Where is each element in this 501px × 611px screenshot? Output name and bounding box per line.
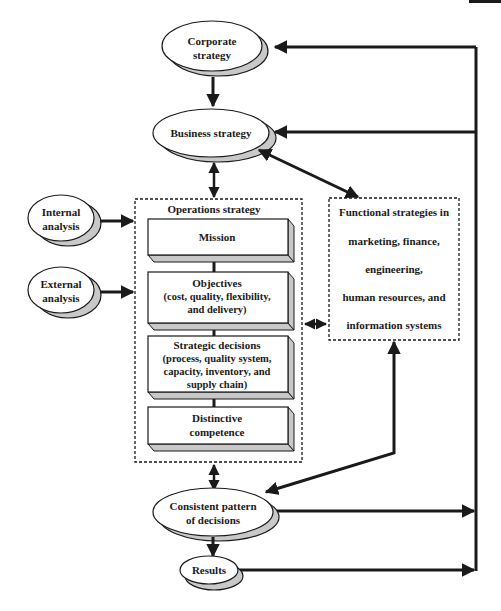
- functional-line5: information systems: [346, 319, 442, 331]
- results-node: Results: [180, 556, 243, 590]
- consistent-pattern-line2: of decisions: [186, 514, 241, 526]
- objectives-line3: and delivery): [187, 304, 247, 316]
- mission-box: Mission: [148, 219, 294, 262]
- objectives-box: Objectives (cost, quality, flexibility, …: [148, 272, 294, 330]
- internal-analysis-line1: Internal: [42, 206, 81, 218]
- operations-strategy-diagram: Corporate strategy Business strategy Int…: [0, 0, 501, 611]
- objectives-line2: (cost, quality, flexibility,: [163, 291, 270, 303]
- arrow-business-functional: [259, 150, 358, 197]
- functional-strategies-box: Functional strategies in marketing, fina…: [329, 198, 459, 340]
- strategic-decisions-line3: capacity, inventory, and: [164, 366, 271, 377]
- distinctive-competence-box: Distinctive competence: [148, 407, 294, 451]
- corporate-strategy-line1: Corporate: [188, 35, 237, 47]
- internal-analysis-line2: analysis: [42, 220, 80, 232]
- business-strategy-node: Business strategy: [153, 109, 276, 162]
- distinctive-competence-line1: Distinctive: [192, 412, 242, 424]
- strategic-decisions-line2: (process, quality system,: [163, 353, 272, 365]
- consistent-pattern-node: Consistent pattern of decisions: [153, 488, 279, 541]
- mission-label: Mission: [199, 231, 236, 243]
- strategic-decisions-line4: supply chain): [187, 379, 248, 391]
- page-corner-tab: [469, 0, 501, 3]
- external-analysis-line2: analysis: [42, 292, 80, 304]
- functional-line1: Functional strategies in: [339, 206, 449, 218]
- operations-strategy-container: Operations strategy Mission Objectives (…: [135, 199, 302, 462]
- corporate-strategy-line2: strategy: [193, 49, 231, 61]
- business-strategy-label: Business strategy: [171, 127, 252, 139]
- consistent-pattern-line1: Consistent pattern: [169, 500, 256, 512]
- operations-strategy-title: Operations strategy: [167, 203, 261, 215]
- strategic-decisions-title: Strategic decisions: [173, 339, 261, 351]
- functional-line2: marketing, finance,: [348, 235, 440, 247]
- functional-line3: engineering,: [365, 263, 423, 275]
- external-analysis-node: External analysis: [28, 267, 101, 318]
- functional-line4: human resources, and: [342, 291, 445, 303]
- internal-analysis-node: Internal analysis: [28, 195, 101, 246]
- objectives-title: Objectives: [192, 277, 242, 289]
- external-analysis-line1: External: [41, 278, 82, 290]
- corporate-strategy-node: Corporate strategy: [162, 21, 268, 76]
- distinctive-competence-line2: competence: [190, 426, 245, 438]
- strategic-decisions-box: Strategic decisions (process, quality sy…: [148, 336, 294, 399]
- results-label: Results: [192, 564, 227, 576]
